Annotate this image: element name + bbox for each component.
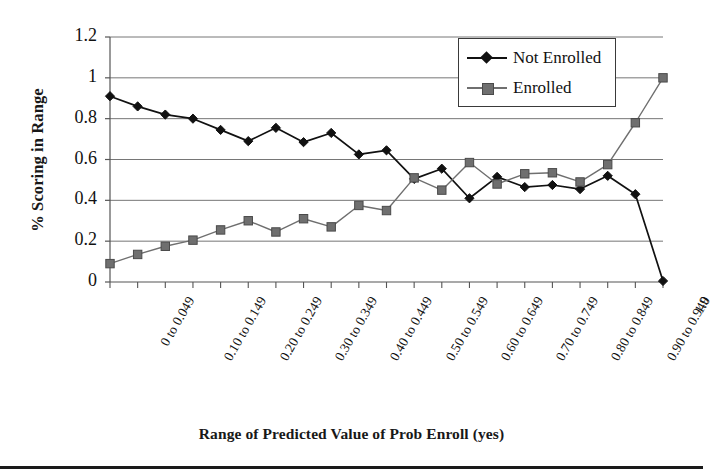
- data-point-marker-square: [659, 74, 667, 82]
- data-point-marker-square: [299, 215, 307, 223]
- data-point-marker-square: [272, 228, 280, 236]
- data-point-marker-diamond: [161, 110, 170, 119]
- data-point-marker-diamond: [271, 123, 280, 132]
- data-point-marker-diamond: [105, 92, 114, 101]
- data-point-marker-square: [493, 180, 501, 188]
- data-point-marker-diamond: [631, 190, 640, 199]
- data-point-marker-square: [216, 226, 224, 234]
- data-point-marker-diamond: [244, 137, 253, 146]
- data-point-marker-square: [106, 259, 114, 267]
- data-point-marker-square: [244, 217, 252, 225]
- data-point-marker-square: [438, 186, 446, 194]
- data-point-marker-diamond: [188, 114, 197, 123]
- data-point-marker-square: [189, 236, 197, 244]
- figure-bottom-rule: [0, 466, 703, 469]
- legend-label-enrolled: Enrolled: [513, 78, 572, 98]
- data-point-marker-square: [631, 119, 639, 127]
- data-point-marker-square: [355, 201, 363, 209]
- legend-marker-diamond-icon: [465, 48, 509, 68]
- chart-legend: Not Enrolled Enrolled: [458, 38, 616, 107]
- data-point-marker-square: [576, 178, 584, 186]
- data-point-marker-square: [161, 242, 169, 250]
- data-point-marker-diamond: [520, 182, 529, 191]
- data-point-marker-square: [327, 223, 335, 231]
- data-point-marker-square: [410, 174, 418, 182]
- data-point-marker-diamond: [603, 171, 612, 180]
- legend-marker-square-icon: [465, 78, 509, 98]
- data-point-marker-square: [604, 160, 612, 168]
- legend-label-not-enrolled: Not Enrolled: [513, 48, 601, 68]
- data-point-marker-square: [133, 250, 141, 258]
- data-point-marker-diamond: [133, 102, 142, 111]
- data-point-marker-diamond: [658, 276, 667, 285]
- data-point-marker-square: [382, 206, 390, 214]
- legend-item-enrolled: Enrolled: [459, 73, 615, 103]
- legend-item-not-enrolled: Not Enrolled: [459, 43, 615, 73]
- data-point-marker-diamond: [299, 138, 308, 147]
- data-point-marker-diamond: [548, 180, 557, 189]
- data-point-marker-square: [465, 158, 473, 166]
- data-point-marker-diamond: [216, 125, 225, 134]
- data-point-marker-square: [548, 169, 556, 177]
- data-point-marker-square: [521, 170, 529, 178]
